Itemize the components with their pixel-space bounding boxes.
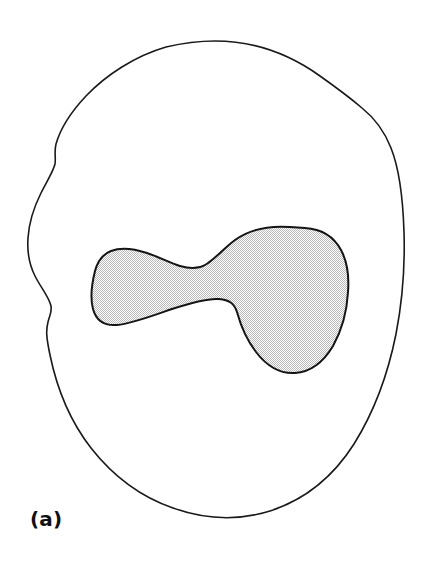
figure-drawing <box>0 0 426 569</box>
figure-panel: (a) <box>0 0 426 569</box>
panel-label: (a) <box>30 509 62 529</box>
